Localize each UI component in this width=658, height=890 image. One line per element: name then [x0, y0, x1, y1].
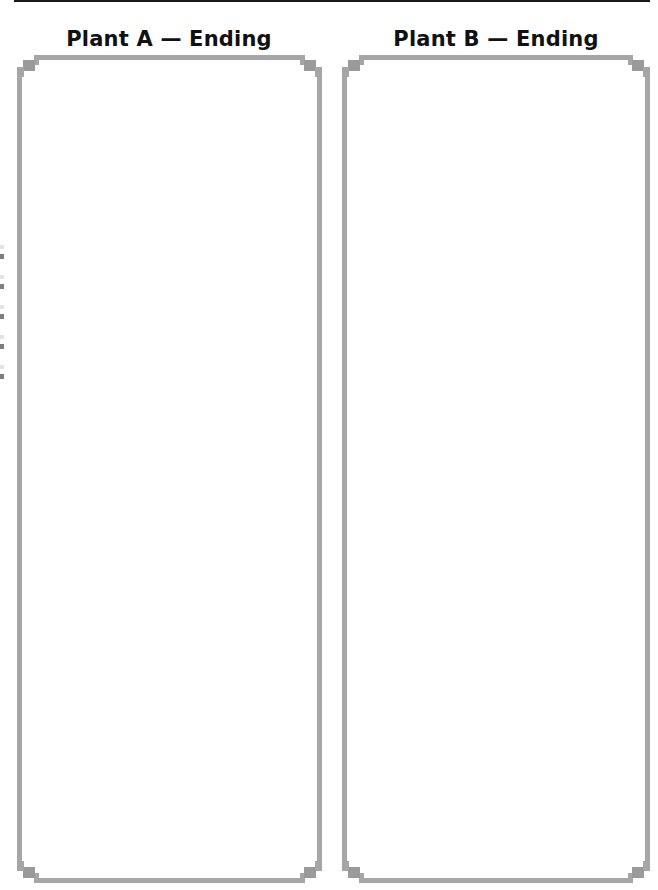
stepped-corner-icon	[628, 55, 650, 77]
top-rule	[14, 0, 650, 2]
plant-a-drawing-area[interactable]	[22, 60, 317, 878]
frame-border-left	[17, 77, 22, 861]
stepped-corner-icon	[300, 861, 322, 883]
stepped-corner-icon	[342, 55, 364, 77]
frame-border-right	[317, 77, 322, 861]
plant-a-title: Plant A — Ending	[17, 24, 321, 54]
frame-border-top	[364, 55, 628, 60]
frame-border-bottom	[364, 878, 628, 883]
stepped-corner-icon	[17, 55, 39, 77]
plant-b-drawing-frame[interactable]	[342, 55, 650, 883]
frame-border-left	[342, 77, 347, 861]
frame-border-top	[39, 55, 300, 60]
plant-b-drawing-area[interactable]	[347, 60, 645, 878]
plant-b-title: Plant B — Ending	[342, 24, 650, 54]
stepped-corner-icon	[17, 861, 39, 883]
stepped-corner-icon	[300, 55, 322, 77]
frame-border-bottom	[39, 878, 300, 883]
cropped-edge-text	[0, 245, 4, 395]
stepped-corner-icon	[628, 861, 650, 883]
stepped-corner-icon	[342, 861, 364, 883]
plant-a-drawing-frame[interactable]	[17, 55, 322, 883]
frame-border-right	[645, 77, 650, 861]
